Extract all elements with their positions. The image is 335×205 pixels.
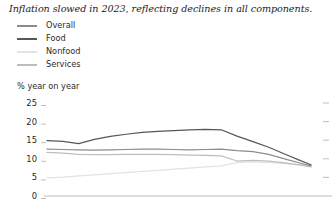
plot-svg bbox=[0, 0, 335, 205]
y-axis-tick-label: 15 bbox=[15, 135, 37, 145]
y-axis-tick-label: 10 bbox=[15, 154, 37, 164]
series-line-food bbox=[47, 129, 311, 164]
series-layer bbox=[47, 129, 311, 177]
y-axis-tick-label: 25 bbox=[15, 98, 37, 108]
y-axis-tick-label: 20 bbox=[15, 117, 37, 127]
series-line-overall bbox=[47, 149, 311, 166]
inflation-line-chart: Inflation slowed in 2023, reflecting dec… bbox=[0, 0, 335, 205]
series-line-nonfood bbox=[47, 162, 311, 178]
axis-layer bbox=[41, 103, 332, 199]
y-axis-tick-label: 5 bbox=[15, 172, 37, 182]
y-axis-tick-label: 0 bbox=[15, 191, 37, 201]
plot-area: 2520151050 bbox=[0, 0, 335, 205]
